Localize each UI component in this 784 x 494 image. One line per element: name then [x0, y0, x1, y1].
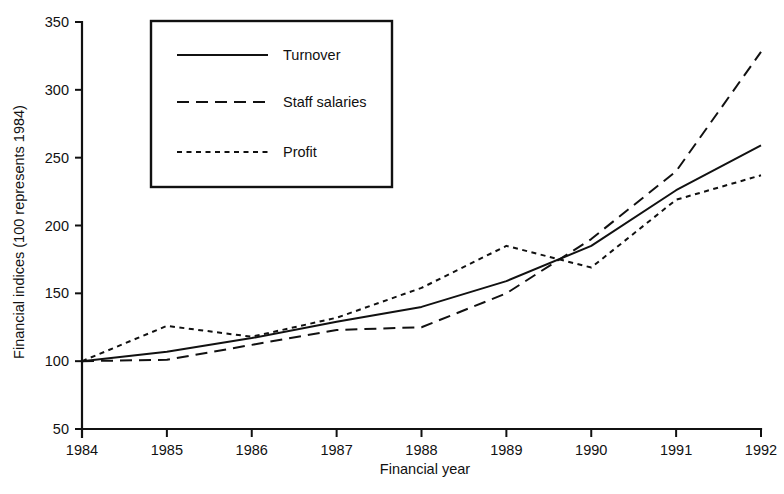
y-axis-ticks: 50100150200250300350 [45, 14, 82, 437]
legend-label-turnover: Turnover [283, 47, 341, 63]
y-axis-title: Financial indices (100 represents 1984) [11, 105, 27, 359]
x-tick-label: 1991 [660, 442, 692, 458]
line-chart: 50100150200250300350 Financial indices (… [0, 0, 784, 494]
x-tick-label: 1988 [405, 442, 437, 458]
chart-figure: 50100150200250300350 Financial indices (… [0, 0, 784, 494]
y-tick-label: 250 [45, 150, 69, 166]
y-tick-label: 50 [53, 421, 69, 437]
x-tick-label: 1985 [151, 442, 183, 458]
y-tick-label: 150 [45, 285, 69, 301]
y-tick-label: 300 [45, 82, 69, 98]
y-tick-label: 100 [45, 353, 69, 369]
x-axis: 198419851986198719881989199019911992 Fin… [66, 429, 777, 477]
x-tick-label: 1986 [236, 442, 268, 458]
legend-label-staff-salaries: Staff salaries [283, 94, 367, 110]
x-tick-label: 1989 [490, 442, 522, 458]
x-tick-label: 1992 [745, 442, 777, 458]
x-axis-ticks: 198419851986198719881989199019911992 [66, 429, 777, 458]
y-tick-label: 350 [45, 14, 69, 30]
y-tick-label: 200 [45, 218, 69, 234]
series-line-profit [82, 175, 761, 361]
chart-legend: TurnoverStaff salariesProfit [151, 21, 392, 187]
x-axis-title: Financial year [380, 461, 470, 477]
x-tick-label: 1990 [575, 442, 607, 458]
x-tick-label: 1987 [320, 442, 352, 458]
y-axis: 50100150200250300350 Financial indices (… [11, 14, 82, 437]
legend-label-profit: Profit [283, 144, 317, 160]
x-tick-label: 1984 [66, 442, 98, 458]
